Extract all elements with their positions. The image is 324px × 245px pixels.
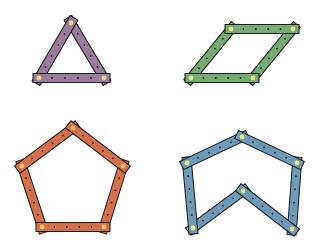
hole-icon [54, 226, 56, 228]
bar [185, 74, 259, 83]
pivot-pin-icon [291, 27, 296, 32]
hole-icon [255, 28, 257, 30]
pivot-pin-icon [69, 21, 74, 26]
hole-icon [78, 226, 80, 228]
pivot-pin-icon [37, 76, 42, 81]
pivot-pin-icon [71, 126, 76, 131]
hole-icon [91, 226, 93, 228]
bar [33, 74, 110, 83]
hole-icon [51, 77, 53, 79]
shapes-layer [15, 16, 305, 237]
pivot-pin-icon [20, 164, 25, 169]
pivot-pin-icon [229, 27, 234, 32]
pivot-pin-icon [40, 225, 45, 230]
hole-icon [280, 28, 282, 30]
pivot-pin-icon [290, 227, 295, 232]
hole-icon [66, 226, 68, 228]
linkage-diagram [0, 0, 324, 245]
hole-icon [77, 77, 79, 79]
bar [235, 130, 305, 169]
pivot-pin-icon [295, 161, 300, 166]
pivot-pin-icon [189, 76, 194, 81]
pivot-pin-icon [102, 76, 107, 81]
hole-icon [240, 77, 242, 79]
pivot-pin-icon [102, 225, 107, 230]
hole-icon [267, 28, 269, 30]
bar [36, 223, 110, 232]
concave-hexagon-shape [180, 130, 305, 236]
triangle-shape [32, 16, 111, 86]
pivot-pin-icon [185, 161, 190, 166]
hole-icon [64, 77, 66, 79]
parallelogram-shape [184, 22, 301, 86]
hole-icon [215, 77, 217, 79]
pivot-pin-icon [191, 226, 196, 231]
hole-icon [203, 77, 205, 79]
pivot-pin-icon [121, 164, 126, 169]
hole-icon [227, 77, 229, 79]
pivot-pin-icon [241, 189, 246, 194]
pentagon-shape [15, 121, 131, 234]
pivot-pin-icon [240, 135, 245, 140]
hole-icon [243, 28, 245, 30]
pivot-pin-icon [251, 76, 256, 81]
hole-icon [90, 77, 92, 79]
bar [225, 25, 299, 34]
